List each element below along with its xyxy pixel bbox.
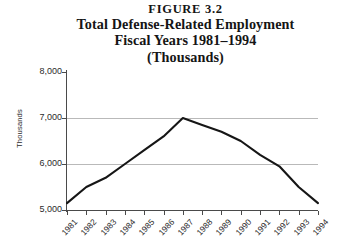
- data-series-svg: [0, 0, 337, 251]
- defense-employment-line: [67, 118, 318, 203]
- figure-container: FIGURE 3.2 Total Defense-Related Employm…: [0, 0, 337, 251]
